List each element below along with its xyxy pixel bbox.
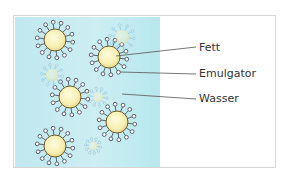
faded-fat-droplet [40,63,63,86]
fat-droplet [35,126,74,165]
leader-line-wasser [122,94,196,99]
label-emulgator: Emulgator [199,68,256,80]
fat-droplet [50,77,89,116]
leader-line-emulgator [120,72,196,74]
label-wasser: Wasser [199,93,239,105]
label-fett: Fett [199,42,220,54]
emulsion-drawing [0,0,286,177]
fat-droplet [35,20,74,59]
faded-fat-droplet [88,87,108,107]
faded-fat-droplet [84,138,101,155]
fat-droplet [97,102,136,141]
